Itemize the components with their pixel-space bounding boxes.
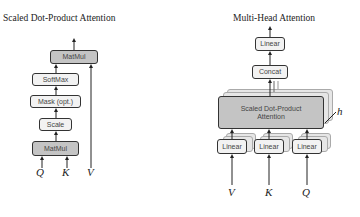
arrows-layer xyxy=(0,0,360,217)
